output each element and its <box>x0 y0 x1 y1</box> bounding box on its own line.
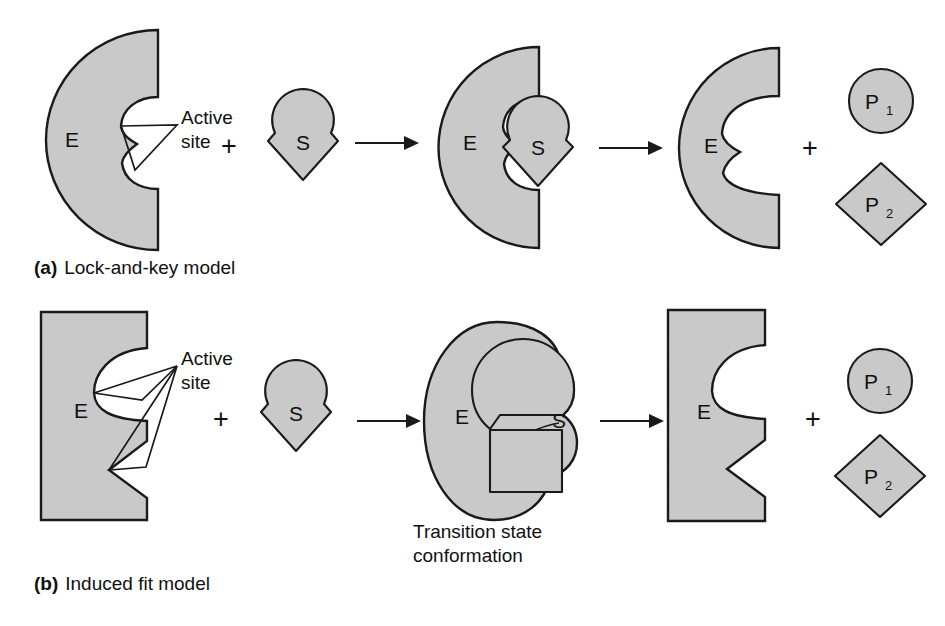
product-1-shape-a <box>849 69 913 133</box>
plus-sign-b-1: + <box>213 404 229 434</box>
panel-a-free-enzyme: E <box>46 30 158 250</box>
plus-sign-a-1: + <box>221 131 237 161</box>
product-1-label-a: P <box>865 90 879 113</box>
diagram-canvas: E Active site + S E S <box>0 0 945 626</box>
panel-a-es-complex: E S <box>439 47 574 248</box>
product-1-subscript-a: 1 <box>886 103 893 118</box>
panel-b-released-enzyme: E <box>668 310 765 521</box>
panel-b-caption: (b)Induced fit model <box>34 573 210 594</box>
transition-state-substrate-square <box>490 430 562 492</box>
panel-a-product-1: P 1 <box>849 69 913 133</box>
panel-b-substrate: S <box>261 360 331 451</box>
panel-a-caption: (a)Lock-and-key model <box>34 257 235 278</box>
enzyme-label-b1: E <box>74 399 88 422</box>
transition-state-label-line1: Transition state <box>413 521 542 542</box>
active-site-label-a-line2: site <box>181 131 211 152</box>
panel-a-product-2: P 2 <box>836 163 926 245</box>
transition-state-label-line2: conformation <box>413 545 523 566</box>
product-1-subscript-b: 1 <box>885 383 892 398</box>
product-2-label-b: P <box>864 465 878 488</box>
arrow-head <box>406 414 421 428</box>
reaction-arrow-a-1 <box>355 136 419 150</box>
released-enzyme-shape-b <box>668 310 765 521</box>
reaction-arrow-a-2 <box>599 141 663 155</box>
enzyme-label-a3: E <box>704 134 718 157</box>
active-site-label-b-line1: Active <box>181 348 233 369</box>
substrate-label-a2: S <box>531 136 545 159</box>
reaction-arrow-b-1 <box>357 414 421 428</box>
enzyme-shape-induced-fit <box>41 312 147 520</box>
panel-b: E Active site + S <box>34 310 925 594</box>
product-2-subscript-a: 2 <box>886 206 893 221</box>
enzyme-label-b2: E <box>455 405 469 428</box>
active-site-label-a-line1: Active <box>181 107 233 128</box>
enzyme-models-figure: E Active site + S E S <box>0 0 945 626</box>
panel-b-product-2: P 2 <box>835 435 925 517</box>
enzyme-label-b3: E <box>697 400 711 423</box>
product-2-shape-b <box>835 435 925 517</box>
panel-a-caption-text: Lock-and-key model <box>64 257 235 278</box>
product-2-subscript-b: 2 <box>885 478 892 493</box>
product-2-shape-a <box>836 163 926 245</box>
panel-b-caption-text: Induced fit model <box>65 573 210 594</box>
product-1-shape-b <box>848 349 912 413</box>
panel-a-substrate: S <box>268 89 338 180</box>
panel-b-free-enzyme: E <box>41 312 147 520</box>
enzyme-shape-lock-and-key <box>46 30 158 250</box>
active-site-leader-line-upper <box>94 366 177 400</box>
arrow-head <box>404 136 419 150</box>
plus-sign-b-2: + <box>805 404 821 434</box>
product-2-label-a: P <box>865 193 879 216</box>
panel-b-transition-state: E S <box>424 322 577 520</box>
enzyme-label-a2: E <box>463 131 477 154</box>
substrate-label-b: S <box>289 402 303 425</box>
enzyme-label-a1: E <box>65 128 79 151</box>
panel-a-released-enzyme: E <box>679 48 779 248</box>
substrate-label-b2: S <box>552 409 566 432</box>
arrow-head <box>648 141 663 155</box>
panel-a-marker: (a) <box>34 257 57 278</box>
substrate-label-a: S <box>296 131 310 154</box>
active-site-label-b-line2: site <box>181 372 211 393</box>
released-enzyme-shape-a <box>679 48 779 248</box>
plus-sign-a-2: + <box>802 133 818 163</box>
reaction-arrow-b-2 <box>600 414 664 428</box>
panel-a: E Active site + S E S <box>34 30 926 278</box>
arrow-head <box>649 414 664 428</box>
panel-b-marker: (b) <box>34 573 58 594</box>
product-1-label-b: P <box>864 370 878 393</box>
panel-b-product-1: P 1 <box>848 349 912 413</box>
